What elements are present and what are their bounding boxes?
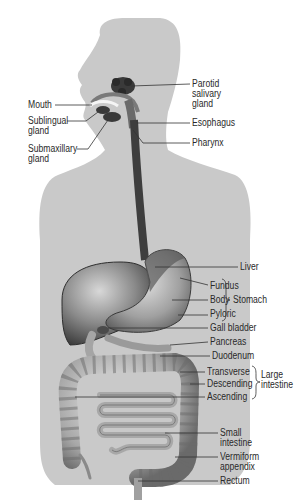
label-transverse: Transverse <box>207 367 250 377</box>
label-body: Body <box>210 295 230 305</box>
label-fundus: Fundus <box>210 281 239 291</box>
anatomy-illustration <box>0 0 305 503</box>
label-pharynx: Pharynx <box>192 138 224 148</box>
label-small-intestine: Small intestine <box>220 428 252 448</box>
gall-bladder <box>97 326 109 334</box>
label-liver: Liver <box>240 262 259 272</box>
label-vermiform-appendix: Vermiform appendix <box>220 452 259 472</box>
label-sublingual-gland: Sublingual gland <box>28 116 68 136</box>
digestive-system-diagram: Mouth Sublingual gland Submaxillary glan… <box>0 0 305 503</box>
label-parotid-salivary-gland: Parotid salivary gland <box>192 79 221 109</box>
label-submaxillary-gland: Submaxillary gland <box>28 144 77 164</box>
label-rectum: Rectum <box>220 476 250 486</box>
label-gall-bladder: Gall bladder <box>210 323 256 333</box>
label-esophagus: Esophagus <box>192 118 235 128</box>
label-mouth: Mouth <box>28 100 52 110</box>
label-pancreas: Pancreas <box>210 337 246 347</box>
label-duodenum: Duodenum <box>212 351 254 361</box>
label-stomach: Stomach <box>233 295 267 305</box>
label-descending: Descending <box>207 379 252 389</box>
label-ascending: Ascending <box>207 392 247 402</box>
submaxillary-gland <box>103 112 121 122</box>
label-large-intestine: Large intestine <box>261 370 293 390</box>
label-pyloric: Pyloric <box>210 309 236 319</box>
